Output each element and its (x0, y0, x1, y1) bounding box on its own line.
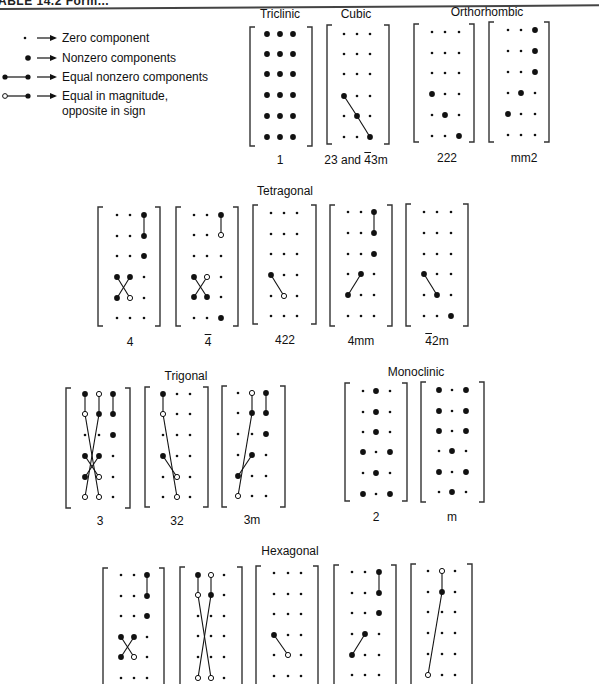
nonzero-component-dot (354, 113, 360, 119)
left-bracket (176, 207, 181, 326)
zero-component-dot (251, 433, 254, 436)
opposite-sign-dot (439, 568, 444, 573)
zero-component-dot (362, 411, 365, 414)
nonzero-component-dot (218, 212, 224, 218)
opposite-sign-dot (195, 592, 200, 597)
zero-component-dot (300, 654, 303, 657)
zero-component-dot (300, 634, 303, 637)
opposite-sign-dot (204, 274, 209, 279)
zero-component-dot (351, 612, 354, 615)
right-bracket (159, 568, 164, 684)
zero-component-dot (116, 214, 119, 217)
opposite-sign-dot (174, 474, 179, 479)
zero-component-dot (444, 31, 447, 34)
tensor-matrix (222, 386, 285, 507)
zero-component-dot (133, 574, 136, 577)
point-group-label: 42m (425, 334, 448, 348)
nonzero-component-dot (439, 589, 445, 595)
zero-component-dot (423, 232, 426, 235)
nonzero-component-dot (373, 388, 379, 394)
opposite-sign-dot (82, 411, 87, 416)
zero-component-dot (112, 476, 115, 479)
zero-component-dot (98, 434, 101, 437)
nonzero-component-dot (249, 410, 255, 416)
zero-component-dot (220, 276, 223, 279)
zero-component-dot (507, 71, 510, 74)
point-group-label: 4 (127, 335, 134, 349)
zero-component-dot (120, 677, 123, 680)
zero-component-dot (283, 233, 286, 236)
zero-component-dot (427, 611, 430, 614)
zero-component-dot (423, 253, 426, 256)
left-bracket (330, 205, 335, 326)
left-bracket (414, 24, 419, 142)
zero-component-dot (431, 135, 434, 138)
nonzero-component-dot (290, 113, 296, 119)
zero-component-dot (444, 135, 447, 138)
nonzero-component-dot (195, 572, 201, 578)
zero-component-dot (441, 674, 444, 677)
left-bracket (421, 382, 426, 502)
opposite-sign-dot (208, 572, 213, 577)
zero-component-dot (534, 92, 537, 95)
zero-component-dot (360, 315, 363, 318)
nonzero-component-dot (436, 408, 442, 414)
zero-component-dot (360, 253, 363, 256)
zero-component-dot (197, 656, 200, 659)
nonzero-component-dot (360, 491, 366, 497)
zero-component-dot (454, 653, 457, 656)
zero-component-dot (273, 654, 276, 657)
nonzero-component-dot (82, 453, 88, 459)
zero-component-dot (120, 595, 123, 598)
nonzero-component-dot (96, 453, 102, 459)
zero-component-dot (270, 315, 273, 318)
zero-component-dot (237, 392, 240, 395)
zero-component-dot (356, 73, 359, 76)
opposite-sign-dot (235, 493, 240, 498)
tensor-matrix (145, 387, 208, 507)
left-bracket (334, 565, 339, 684)
zero-component-dot (444, 93, 447, 96)
nonzero-component-dot (518, 90, 524, 96)
zero-component-dot (364, 612, 367, 615)
left-bracket (253, 205, 258, 324)
zero-component-dot (273, 593, 276, 596)
right-bracket (125, 388, 130, 508)
zero-component-dot (220, 255, 223, 258)
zero-component-dot (465, 491, 468, 494)
zero-component-dot (112, 455, 115, 458)
zero-component-dot (378, 654, 381, 657)
left-bracket (250, 27, 255, 146)
zero-component-dot (120, 574, 123, 577)
zero-component-dot (206, 317, 209, 320)
zero-component-dot (265, 475, 268, 478)
nonzero-component-dot (436, 469, 442, 475)
nonzero-component-dot (118, 654, 124, 660)
zero-component-dot (347, 273, 350, 276)
zero-component-dot (300, 613, 303, 616)
nonzero-component-dot (114, 295, 120, 301)
component-link (424, 274, 437, 295)
zero-component-dot (347, 211, 350, 214)
nonzero-component-dot (436, 387, 442, 393)
point-group-label: 3m (244, 513, 261, 527)
point-group-label: 4 (205, 335, 212, 349)
nonzero-component-dot (144, 613, 150, 619)
zero-component-dot (351, 592, 354, 595)
nonzero-component-dot (442, 112, 448, 118)
zero-component-dot (116, 235, 119, 238)
nonzero-component-dot (263, 390, 269, 396)
zero-component-dot (364, 571, 367, 574)
zero-component-dot (378, 674, 381, 677)
zero-component-dot (189, 434, 192, 437)
opposite-sign-dot (208, 675, 213, 680)
nonzero-component-dot (456, 133, 462, 139)
component-link (357, 116, 370, 137)
right-bracket (402, 383, 407, 501)
nonzero-component-dot (144, 572, 150, 578)
tensor-matrix (176, 207, 238, 326)
left-bracket (406, 204, 411, 326)
right-bracket (311, 205, 316, 324)
zero-component-dot (362, 431, 365, 434)
zero-component-dot (507, 50, 510, 53)
